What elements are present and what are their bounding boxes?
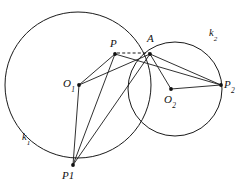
- vertex-dot-p2: [219, 83, 223, 87]
- label-point-o1-subscript: 1: [71, 85, 75, 94]
- segment-a-o2: [150, 54, 171, 89]
- label-point-p: P: [110, 38, 117, 49]
- label-circle-k1: k1: [22, 132, 30, 145]
- label-point-o1: O1: [63, 78, 75, 92]
- label-point-a: A: [147, 33, 154, 44]
- label-point-a-text: A: [147, 32, 154, 44]
- label-point-p2-base: P: [224, 78, 231, 90]
- geometry-figure: P A O1 O2 P2 P1 k1 k2: [0, 0, 241, 188]
- segment-o2-p2: [171, 85, 221, 89]
- label-circle-k2-subscript: 2: [214, 35, 218, 43]
- segment-o1-p1: [73, 85, 79, 165]
- vertex-dot-p1: [71, 163, 75, 167]
- label-point-p1-text: P1: [62, 169, 74, 181]
- segment-p-p2: [115, 54, 221, 85]
- label-circle-k1-subscript: 1: [27, 139, 31, 147]
- label-point-p-text: P: [110, 37, 117, 49]
- geometry-canvas: [0, 0, 241, 188]
- vertex-dot-p: [113, 52, 117, 56]
- label-point-o2-subscript: 2: [172, 101, 176, 110]
- segment-p-p1: [73, 54, 115, 165]
- label-point-o2: O2: [164, 94, 176, 108]
- label-circle-k1-base: k: [22, 131, 27, 142]
- label-circle-k2-base: k: [209, 27, 214, 38]
- label-point-o2-base: O: [164, 93, 172, 105]
- vertex-dot-o1: [77, 83, 81, 87]
- label-circle-k2: k2: [209, 28, 217, 41]
- vertex-dot-o2: [169, 87, 173, 91]
- label-point-p2-subscript: 2: [231, 86, 235, 95]
- label-point-p2: P2: [224, 79, 234, 93]
- label-point-p1: P1: [62, 170, 74, 181]
- label-point-o1-base: O: [63, 77, 71, 89]
- vertex-dot-a: [148, 52, 152, 56]
